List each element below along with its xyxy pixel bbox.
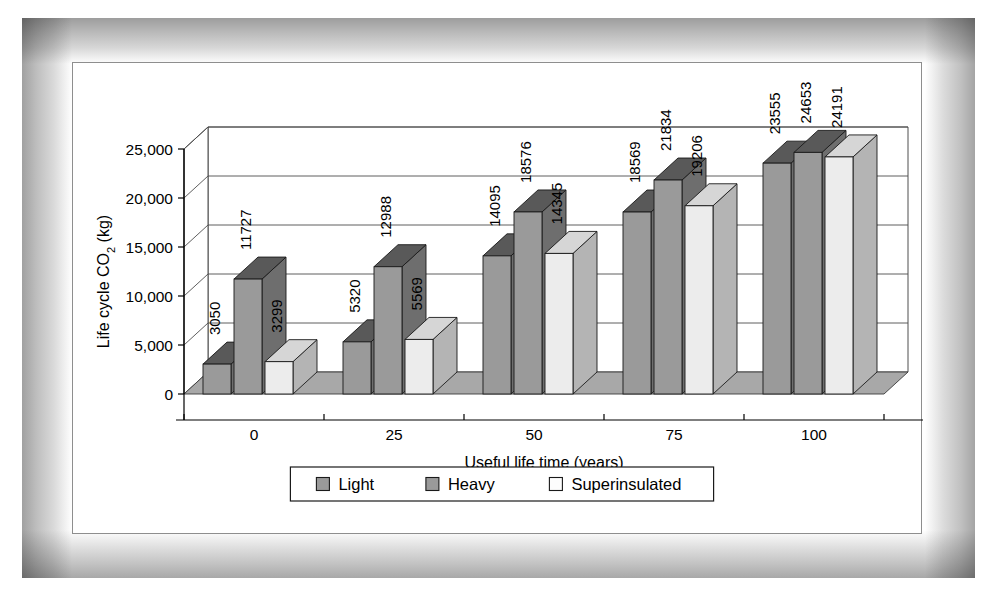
bar-value-label: 3050 <box>206 302 223 335</box>
bar-front-face <box>654 180 682 394</box>
bar-front-face <box>623 212 651 394</box>
y-axis-tick-label: 10,000 <box>126 288 174 305</box>
bar-front-face <box>343 342 371 394</box>
bar-value-label: 21834 <box>657 109 674 151</box>
x-axis-tick-label: 0 <box>250 426 259 443</box>
bar-front-face <box>545 253 573 394</box>
figure-panel: 05,00010,00015,00020,00025,0003050117273… <box>72 62 922 534</box>
bar-front-face <box>203 364 231 394</box>
bar-value-label: 3299 <box>268 299 285 332</box>
left-wall <box>184 127 208 394</box>
bar-side-face <box>573 231 597 394</box>
legend-item-heavy[interactable]: Heavy <box>426 475 496 493</box>
y-axis-tick-label: 0 <box>164 386 173 403</box>
plot-3d: 05,00010,00015,00020,00025,0003050117273… <box>95 82 923 471</box>
bar-value-label: 19206 <box>688 135 705 177</box>
x-axis-tick-label: 25 <box>385 426 402 443</box>
bar-value-label: 24191 <box>828 86 845 128</box>
legend-label: Superinsulated <box>571 475 681 493</box>
bar-front-face <box>514 212 542 394</box>
y-axis-tick-label: 25,000 <box>126 141 174 158</box>
x-axis-tick-label: 75 <box>665 426 682 443</box>
bar-value-label: 18576 <box>517 141 534 183</box>
bar-front-face <box>794 152 822 394</box>
bar-side-face <box>713 184 737 394</box>
bar-value-label: 14345 <box>548 183 565 225</box>
screenshot-page: 05,00010,00015,00020,00025,0003050117273… <box>0 0 997 596</box>
chart-svg: 05,00010,00015,00020,00025,0003050117273… <box>73 63 923 535</box>
legend-swatch <box>549 478 562 491</box>
bar-value-label: 12988 <box>377 196 394 238</box>
bar-value-label: 5320 <box>346 279 363 312</box>
bar-value-label: 24653 <box>797 82 814 124</box>
bar-side-face <box>853 135 877 394</box>
y-axis-title: Life cycle CO2 (kg) <box>95 215 117 348</box>
bar-front-face <box>483 256 511 394</box>
legend-label: Light <box>338 475 374 493</box>
bar-front-face <box>234 279 262 394</box>
bar-front-face <box>763 163 791 394</box>
bar-front-face <box>685 206 713 394</box>
bar-front-face <box>265 362 293 394</box>
bar-front-face <box>825 157 853 394</box>
bar-front-face <box>374 267 402 394</box>
x-axis-tick-label: 100 <box>801 426 827 443</box>
y-axis-tick-label: 5,000 <box>134 337 173 354</box>
legend: LightHeavySuperinsulated <box>290 467 713 501</box>
y-axis-tick-label: 20,000 <box>126 190 174 207</box>
bar-value-label: 14095 <box>486 185 503 227</box>
legend-swatch <box>426 478 439 491</box>
legend-label: Heavy <box>448 475 496 493</box>
bar-front-face <box>405 339 433 394</box>
y-axis-tick-label: 15,000 <box>126 239 174 256</box>
bar-value-label: 11727 <box>237 209 254 250</box>
legend-swatch <box>316 478 329 491</box>
bar-value-label: 5569 <box>408 277 425 310</box>
bar-chart: 05,00010,00015,00020,00025,0003050117273… <box>73 63 923 535</box>
x-axis-tick-label: 50 <box>525 426 543 443</box>
bar-value-label: 18569 <box>626 141 643 183</box>
legend-item-light[interactable]: Light <box>316 475 374 493</box>
bar-value-label: 23555 <box>766 92 783 134</box>
